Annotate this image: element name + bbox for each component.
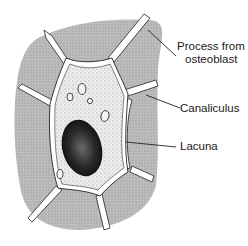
label-canaliculus: Canaliculus <box>180 102 240 114</box>
label-lacuna: Lacuna <box>180 140 218 152</box>
label-process-line2: osteoblast <box>185 53 238 65</box>
label-process-line1: Process from <box>177 40 245 52</box>
osteocyte-diagram: Process from osteoblast Canaliculus Lacu… <box>0 0 248 246</box>
